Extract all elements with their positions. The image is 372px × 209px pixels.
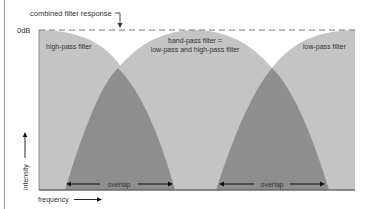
overlap-label-left: overlap [108, 181, 131, 189]
overlap-label-right: overlap [261, 181, 284, 189]
low-pass-label: low-pass filter [303, 43, 346, 51]
y-axis-label: intensity [22, 164, 30, 190]
y-axis-arrowhead-icon [23, 132, 28, 137]
band-pass-label-line2: low-pass and high-pass filter [151, 46, 240, 54]
x-axis-label: frequency [38, 196, 69, 204]
filter-response-diagram: combined filter response 0dB high-pass f… [0, 0, 372, 209]
pointer-arrowhead-icon [118, 23, 123, 28]
combined-response-label: combined filter response [30, 9, 112, 18]
zero-db-label: 0dB [17, 26, 30, 35]
band-pass-label-line1: band-pass filter = [168, 37, 222, 45]
high-pass-label: high-pass filter [46, 43, 92, 51]
x-axis-arrowhead-icon [97, 197, 102, 202]
